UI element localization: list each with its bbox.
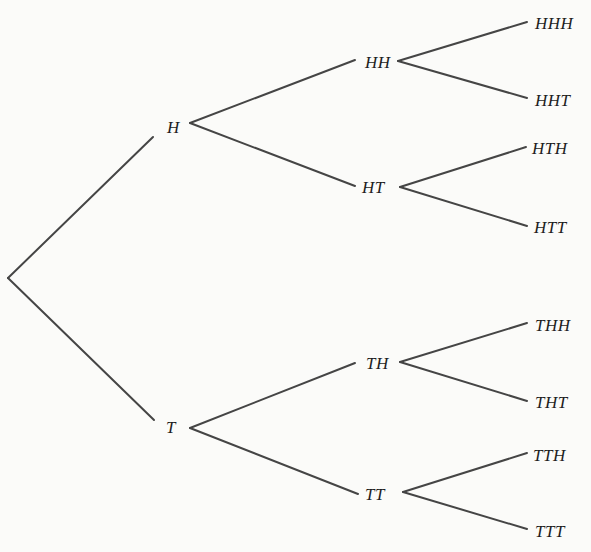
edge-hh-hht [398,61,527,98]
edge-tt-tth [403,453,527,492]
edge-t-tt [190,428,358,494]
node-ht: HT [362,179,385,196]
edge-root-t [8,278,154,420]
outcome-thh: THH [535,317,571,334]
outcome-hht: HHT [535,92,571,109]
edge-h-hh [190,60,355,123]
tree-diagram: H T HH HT TH TT HHH HHT HTH HTT THH THT … [0,0,591,552]
outcome-hth: HTH [532,140,568,157]
node-hh: HH [365,54,391,71]
outcome-tth: TTH [533,447,566,464]
outcome-tht: THT [535,394,568,411]
node-tt: TT [365,486,385,503]
edge-ht-htt [400,187,527,226]
outcome-ttt: TTT [535,523,565,540]
edge-ht-hth [400,147,526,187]
edge-hh-hhh [398,22,527,61]
edge-th-thh [400,323,527,362]
edge-h-ht [190,123,355,186]
node-h: H [167,119,180,136]
outcome-hhh: HHH [535,15,573,32]
edge-tt-ttt [403,492,527,529]
outcome-htt: HTT [534,219,567,236]
node-th: TH [366,355,389,372]
edge-root-h [8,137,153,278]
tree-edges [0,0,591,552]
edge-th-tht [400,362,527,401]
node-t: T [166,419,176,436]
edge-t-th [190,363,355,428]
